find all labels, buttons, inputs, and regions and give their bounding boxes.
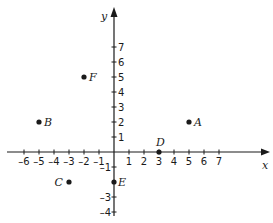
point-label-b: B [43,116,52,129]
x-tick-label: –5 [33,156,44,167]
x-tick-label: 7 [216,156,222,167]
x-tick-label: 4 [171,156,177,167]
y-tick-label: –3 [100,192,111,203]
x-tick-label: –2 [78,156,89,167]
y-tick-label: 3 [118,102,124,113]
x-tick-label: 5 [186,156,192,167]
point-label-e: E [117,176,126,189]
y-tick-label: 1 [118,132,124,143]
axes: xy [7,7,270,216]
x-tick-label: 6 [201,156,207,167]
point-e [111,179,116,184]
y-tick-label: 7 [118,42,124,53]
x-tick-label: 3 [156,156,162,167]
point-d [156,149,161,154]
x-tick-label: 2 [141,156,147,167]
y-tick-label: –4 [100,207,111,218]
x-axis-label: x [262,159,269,172]
x-tick-label: –4 [48,156,59,167]
x-axis-arrow-icon [261,149,270,156]
x-tick-label: –6 [18,156,29,167]
point-label-c: C [55,176,64,189]
point-c [66,179,71,184]
x-tick-label: 1 [126,156,132,167]
y-axis-label: y [100,10,108,23]
point-label-d: D [155,136,165,149]
y-tick-label: 6 [118,57,124,68]
point-f [81,74,86,79]
y-tick-label: 2 [118,117,124,128]
y-tick-label: 5 [118,72,124,83]
y-axis-arrow-icon [111,7,118,17]
point-label-f: F [88,71,97,84]
coordinate-plane: xy –6–5–4–3–2–11234567–4–3–11234567 ABCD… [0,0,273,223]
y-tick-label: 4 [118,87,124,98]
point-a [186,119,191,124]
x-tick-label: –3 [63,156,74,167]
point-b [36,119,41,124]
y-tick-label: –1 [100,162,111,173]
point-label-a: A [193,116,202,129]
tick-marks: –6–5–4–3–2–11234567–4–3–11234567 [18,42,222,218]
